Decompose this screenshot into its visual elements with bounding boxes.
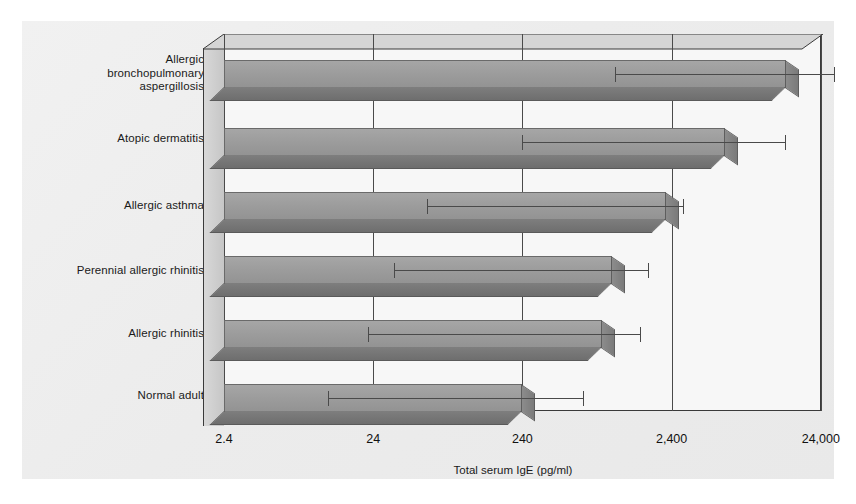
gridline: [224, 34, 225, 411]
x-axis-title: Total serum IgE (pg/ml): [203, 464, 823, 476]
category-label-atopic-dermatitis: Atopic dermatitis: [26, 132, 204, 146]
category-label-line: Allergic asthma: [26, 199, 204, 213]
category-label-line: aspergillosis: [26, 80, 204, 94]
plot-area: [203, 34, 823, 432]
x-tick-label: 2.4: [215, 432, 232, 446]
x-tick-label: 24,000: [802, 432, 840, 446]
x-axis-ticks: 2.4242402,40024,000: [203, 432, 823, 454]
bar-bottom-face: [210, 411, 523, 425]
category-label-allergic-bronchopulmonary-aspergillosis: Allergic bronchopulmonary aspergillosis: [26, 53, 204, 94]
plot-top-slab: [203, 34, 823, 50]
x-tick-label: 2,400: [656, 432, 687, 446]
category-label-line: Allergic rhinitis: [26, 327, 204, 341]
gridline: [821, 34, 822, 411]
category-label-allergic-rhinitis: Allergic rhinitis: [26, 327, 204, 341]
category-label-line: bronchopulmonary: [26, 67, 204, 81]
category-label-allergic-asthma: Allergic asthma: [26, 199, 204, 213]
gridline: [522, 34, 523, 411]
y-axis-depth-wall: [203, 48, 224, 426]
category-label-perennial-allergic-rhinitis: Perennial allergic rhinitis: [26, 264, 204, 278]
category-label-line: Atopic dermatitis: [26, 132, 204, 146]
category-label-line: Allergic: [26, 53, 204, 67]
error-bar-cap-high: [834, 67, 835, 82]
gridline: [672, 34, 673, 411]
category-label-normal-adult: Normal adult: [26, 389, 204, 403]
chart-figure: Allergic bronchopulmonary aspergillosis …: [22, 21, 834, 479]
gridline: [373, 34, 374, 411]
x-tick-label: 24: [366, 432, 380, 446]
category-label-line: Perennial allergic rhinitis: [26, 264, 204, 278]
y-axis-category-labels: Allergic bronchopulmonary aspergillosis …: [22, 21, 204, 401]
x-tick-label: 240: [512, 432, 533, 446]
category-label-line: Normal adult: [26, 389, 204, 403]
